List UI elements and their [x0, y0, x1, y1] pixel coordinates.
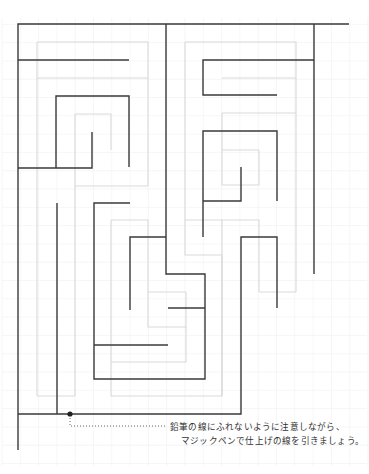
maze-wall: [18, 24, 349, 450]
guide-line: [75, 114, 111, 150]
instruction-line-1: 鉛筆の線にふれないように注意しながら、: [170, 420, 345, 432]
instruction-line-2: マジックペンで仕上げの線を引きましょう。: [181, 434, 364, 446]
maze-diagram: [0, 0, 369, 474]
start-dot-icon: [67, 411, 72, 416]
maze-wall: [18, 132, 92, 168]
maze-walls: [18, 24, 349, 450]
leader-dotted-line: [70, 418, 167, 426]
